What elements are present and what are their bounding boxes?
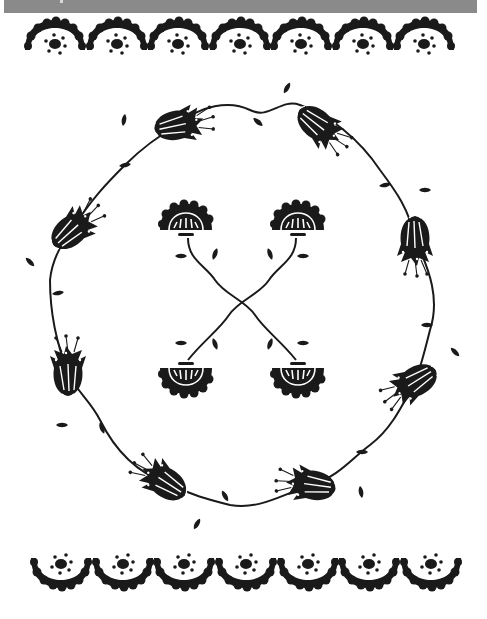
fan-flower-bottom-right <box>270 362 326 399</box>
bottom-flower-2 <box>92 553 154 591</box>
top-flower-7 <box>393 17 455 55</box>
leaf <box>52 290 65 297</box>
fan-flower-top-left <box>158 200 214 237</box>
leaf <box>192 518 202 531</box>
leaf <box>220 490 230 503</box>
bell-flower-left-lower <box>50 334 86 397</box>
bell-flower-left-upper <box>41 192 112 260</box>
leaf <box>266 338 274 351</box>
leaf <box>24 256 36 268</box>
leaf <box>211 338 219 351</box>
leaf <box>449 346 461 358</box>
leaf <box>297 254 309 259</box>
artwork-canvas <box>0 0 487 619</box>
bottom-border <box>30 553 462 591</box>
fan-flower-top-right <box>270 200 326 237</box>
bottom-flower-7 <box>400 553 462 591</box>
leaf <box>252 116 264 127</box>
leaf <box>297 341 309 346</box>
bottom-flower-6 <box>338 553 400 591</box>
leaf <box>282 82 292 95</box>
leaf <box>119 162 132 169</box>
top-flower-3 <box>147 17 209 55</box>
top-flower-5 <box>270 17 332 55</box>
bottom-flower-5 <box>277 553 339 591</box>
top-flower-6 <box>332 17 394 55</box>
bell-flower-bottom-left <box>124 446 196 512</box>
bottom-flower-3 <box>153 553 215 591</box>
bell-flower-bottom-right <box>272 461 340 507</box>
top-flower-2 <box>86 17 148 55</box>
leaf <box>356 450 368 455</box>
leaf <box>419 188 431 193</box>
wreath <box>24 82 461 531</box>
leaf <box>211 248 219 261</box>
leaf <box>175 341 187 346</box>
bottom-flower-4 <box>215 553 277 591</box>
leaf <box>175 254 187 259</box>
leaf <box>121 114 128 127</box>
bell-flower-top-left <box>150 101 218 147</box>
fan-flower-bottom-left <box>158 362 214 399</box>
leaf <box>358 486 365 499</box>
top-flower-4 <box>209 17 271 55</box>
vine <box>50 104 434 506</box>
top-flower-1 <box>24 17 86 55</box>
leaf <box>56 423 68 428</box>
center-motif <box>158 200 326 399</box>
bell-flower-right-lower <box>373 354 445 417</box>
top-border <box>24 17 455 55</box>
bottom-flower-1 <box>30 553 92 591</box>
leaf <box>266 248 274 261</box>
